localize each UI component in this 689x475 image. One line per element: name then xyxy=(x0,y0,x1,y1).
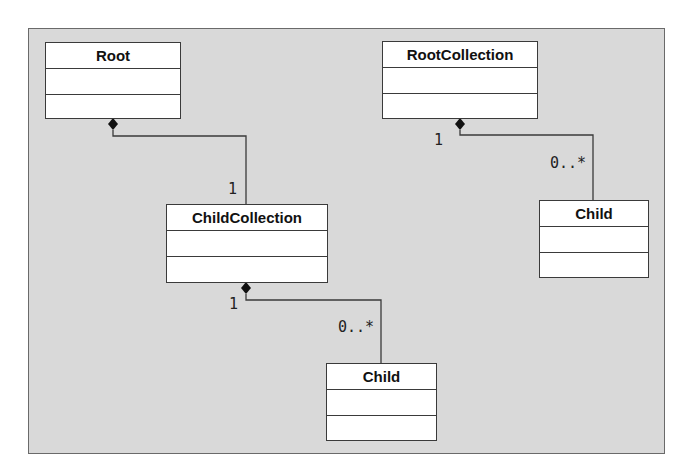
class-child-bottom[interactable]: Child xyxy=(326,363,437,441)
class-operations xyxy=(46,95,180,119)
class-attributes xyxy=(327,390,436,416)
class-root-collection[interactable]: RootCollection xyxy=(382,41,538,119)
class-name: Child xyxy=(540,201,648,227)
class-child-right[interactable]: Child xyxy=(539,200,649,278)
class-attributes xyxy=(167,231,327,257)
class-operations xyxy=(383,94,537,118)
class-name: Child xyxy=(327,364,436,390)
multiplicity-label: 1 xyxy=(228,180,237,198)
multiplicity-label: 0..* xyxy=(550,154,586,172)
class-attributes xyxy=(383,68,537,94)
class-operations xyxy=(167,257,327,281)
multiplicity-label: 1 xyxy=(434,131,443,149)
multiplicity-label: 0..* xyxy=(338,318,374,336)
composition-diamond-icon xyxy=(108,118,118,130)
class-child-collection[interactable]: ChildCollection xyxy=(166,204,328,283)
composition-diamond-icon xyxy=(241,282,251,294)
class-name: Root xyxy=(46,43,180,69)
class-name: ChildCollection xyxy=(167,205,327,231)
multiplicity-label: 1 xyxy=(229,295,238,313)
class-operations xyxy=(540,253,648,277)
class-name: RootCollection xyxy=(383,42,537,68)
class-operations xyxy=(327,416,436,440)
composition-diamond-icon xyxy=(455,118,465,130)
class-root[interactable]: Root xyxy=(45,42,181,119)
class-attributes xyxy=(540,227,648,253)
class-attributes xyxy=(46,69,180,95)
